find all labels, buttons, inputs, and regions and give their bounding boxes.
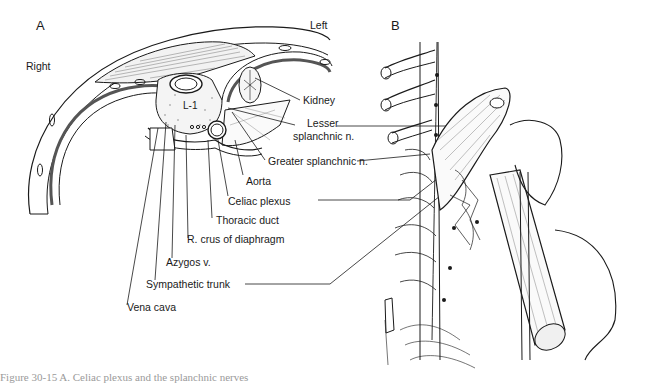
vertebra-l1-label: L-1 [183, 100, 197, 112]
vena-cava-label: Vena cava [127, 301, 176, 313]
orientation-right-label: Right [26, 60, 51, 72]
azygos-label: Azygos v. [166, 256, 211, 268]
aorta-label: Aorta [246, 175, 271, 187]
cross-section-drawing [29, 27, 332, 214]
thoracic-duct-label: Thoracic duct [216, 214, 279, 226]
panel-a-letter: A [36, 18, 45, 33]
figure-caption: Figure 30-15 A. Celiac plexus and the sp… [0, 371, 248, 383]
r-crus-diaphragm-label: R. crus of diaphragm [187, 233, 284, 245]
sympathetic-trunk-label: Sympathetic trunk [146, 278, 230, 290]
spine-drawing [381, 42, 616, 368]
orientation-left-label: Left [310, 19, 328, 31]
lesser-splanchnic-label-line1: Lesser [307, 117, 339, 129]
greater-splanchnic-label: Greater splanchnic n. [268, 155, 368, 167]
celiac-plexus-label: Celiac plexus [228, 195, 290, 207]
anatomical-illustration [0, 0, 652, 384]
lesser-splanchnic-label-line2: splanchnic n. [293, 130, 354, 142]
panel-b-letter: B [391, 18, 400, 33]
kidney-label: Kidney [303, 94, 335, 106]
